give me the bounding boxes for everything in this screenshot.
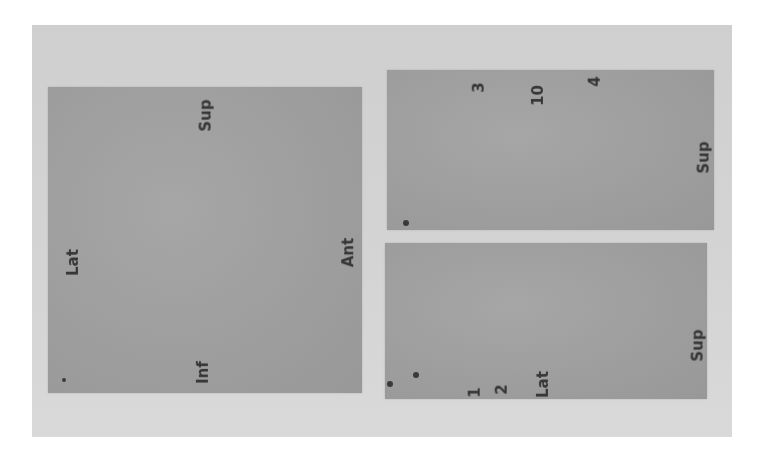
specimen-panel-right-top bbox=[387, 70, 714, 230]
label-lateral: Lat bbox=[536, 371, 551, 398]
label-number-3: 3 bbox=[472, 82, 487, 92]
label-number-10: 10 bbox=[531, 85, 546, 106]
corner-mark bbox=[413, 372, 419, 378]
label-number-1: 1 bbox=[468, 387, 483, 397]
label-inferior: Inf bbox=[196, 361, 211, 384]
specimen-panel-left bbox=[48, 87, 362, 393]
label-superior: Sup bbox=[697, 141, 712, 173]
label-number-4: 4 bbox=[588, 76, 603, 86]
corner-mark bbox=[387, 381, 393, 387]
corner-mark bbox=[403, 220, 409, 226]
label-number-2: 2 bbox=[495, 384, 510, 394]
corner-mark bbox=[62, 378, 66, 382]
label-superior: Sup bbox=[691, 329, 706, 361]
label-anterior: Ant bbox=[341, 238, 356, 267]
label-lateral: Lat bbox=[66, 249, 81, 276]
label-superior: Sup bbox=[199, 99, 214, 131]
